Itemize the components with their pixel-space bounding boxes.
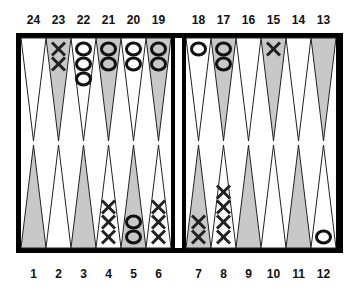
point-2[interactable]: [46, 145, 71, 248]
point-6[interactable]: [146, 145, 171, 248]
point-5[interactable]: [121, 145, 146, 248]
point-label-11: 11: [287, 267, 311, 281]
point-label-7: 7: [187, 267, 211, 281]
point-label-1: 1: [22, 267, 46, 281]
point-label-21: 21: [97, 13, 121, 27]
point-label-5: 5: [122, 267, 146, 281]
point-24[interactable]: [21, 38, 46, 141]
point-label-9: 9: [237, 267, 261, 281]
point-19[interactable]: [146, 38, 171, 141]
point-label-10: 10: [262, 267, 286, 281]
point-3[interactable]: [71, 145, 96, 248]
point-label-18: 18: [187, 13, 211, 27]
point-label-17: 17: [212, 13, 236, 27]
point-label-12: 12: [312, 267, 336, 281]
points-layer: [0, 0, 352, 296]
point-label-6: 6: [147, 267, 171, 281]
point-label-19: 19: [147, 13, 171, 27]
point-23[interactable]: [46, 38, 71, 141]
point-label-3: 3: [72, 267, 96, 281]
point-11[interactable]: [286, 145, 311, 248]
point-label-8: 8: [212, 267, 236, 281]
point-1[interactable]: [21, 145, 46, 248]
point-22[interactable]: [71, 38, 96, 141]
point-label-14: 14: [287, 13, 311, 27]
point-8[interactable]: [211, 145, 236, 248]
point-9[interactable]: [236, 145, 261, 248]
point-10[interactable]: [261, 145, 286, 248]
point-label-15: 15: [262, 13, 286, 27]
point-4[interactable]: [96, 145, 121, 248]
point-21[interactable]: [96, 38, 121, 141]
point-12[interactable]: [311, 145, 336, 248]
point-label-2: 2: [47, 267, 71, 281]
point-label-13: 13: [312, 13, 336, 27]
point-16[interactable]: [236, 38, 261, 141]
point-18[interactable]: [186, 38, 211, 141]
point-label-4: 4: [97, 267, 121, 281]
point-label-23: 23: [47, 13, 71, 27]
point-label-16: 16: [237, 13, 261, 27]
point-20[interactable]: [121, 38, 146, 141]
point-13[interactable]: [311, 38, 336, 141]
point-14[interactable]: [286, 38, 311, 141]
point-7[interactable]: [186, 145, 211, 248]
point-17[interactable]: [211, 38, 236, 141]
point-label-22: 22: [72, 13, 96, 27]
point-label-20: 20: [122, 13, 146, 27]
point-15[interactable]: [261, 38, 286, 141]
point-label-24: 24: [22, 13, 46, 27]
